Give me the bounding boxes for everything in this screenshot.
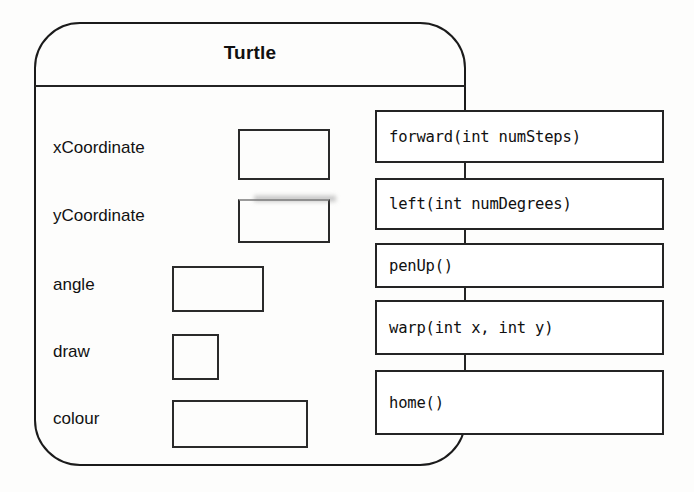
attribute-label-draw: draw [53,342,90,362]
attribute-value-box-draw[interactable] [172,334,219,380]
attribute-value-box-angle[interactable] [172,266,264,312]
class-title: Turtle [34,42,466,64]
method-connector-1 [464,162,466,179]
attribute-label-angle: angle [53,275,95,295]
attribute-value-box-colour[interactable] [172,400,308,448]
method-label-left: left(int numDegrees) [377,195,572,213]
method-connector-2 [464,229,466,244]
attribute-value-box-ycoordinate[interactable] [238,199,330,243]
method-box-forward[interactable]: forward(int numSteps) [375,110,664,163]
method-connector-3 [464,287,466,301]
method-label-warp: warp(int x, int y) [377,319,553,337]
method-label-home: home() [377,394,444,412]
method-label-penup: penUp() [377,257,453,275]
class-title-divider [35,85,466,87]
method-box-home[interactable]: home() [375,370,664,435]
method-box-warp[interactable]: warp(int x, int y) [375,300,664,355]
method-box-left[interactable]: left(int numDegrees) [375,178,664,230]
attribute-label-ycoordinate: yCoordinate [53,206,145,226]
method-box-penup[interactable]: penUp() [375,243,664,288]
attribute-value-box-xcoordinate[interactable] [238,129,330,180]
diagram-canvas: Turtle xCoordinate yCoordinate angle dra… [0,0,694,492]
attribute-label-xcoordinate: xCoordinate [53,138,145,158]
method-label-forward: forward(int numSteps) [377,128,581,146]
attribute-label-colour: colour [53,409,99,429]
method-connector-4 [464,354,466,371]
